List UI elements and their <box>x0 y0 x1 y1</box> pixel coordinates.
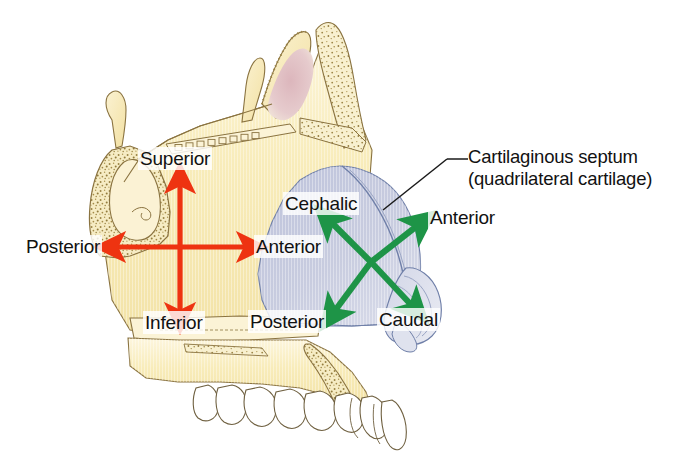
label-posterior-red: Posterior <box>24 235 102 258</box>
label-anterior-green: Anterior <box>428 206 497 229</box>
label-cephalic: Cephalic <box>283 192 359 215</box>
label-inferior: Inferior <box>143 311 205 334</box>
tooth <box>216 385 246 424</box>
callout-line-2: (quadrilateral cartilage) <box>468 168 652 190</box>
label-caudal: Caudal <box>377 308 440 331</box>
label-superior: Superior <box>138 147 212 170</box>
label-anterior-red: Anterior <box>254 235 323 258</box>
callout-cartilaginous-septum: Cartilaginous septum (quadrilateral cart… <box>468 146 652 190</box>
nasal-anatomy-diagram <box>0 0 684 471</box>
callout-line-1: Cartilaginous septum <box>468 146 638 167</box>
label-posterior-green: Posterior <box>248 310 326 333</box>
tooth <box>193 385 218 421</box>
